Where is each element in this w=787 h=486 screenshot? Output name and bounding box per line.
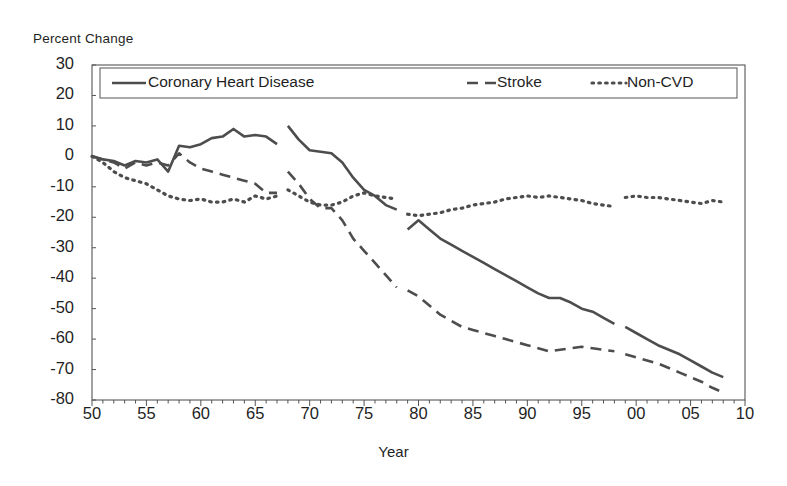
legend-swatches [100,68,737,98]
series-line [408,290,615,351]
series-line [408,196,615,216]
axis-ticks [92,65,745,406]
series-line [408,220,615,324]
data-series-group [92,126,723,392]
chart-figure: Percent Change Year 3020100-10-20-30-40-… [0,0,787,486]
series-line [625,354,723,392]
series-line [92,153,277,193]
series-line [92,129,277,172]
plot-area [0,0,787,486]
axes-frame [92,65,745,400]
series-line [288,172,397,288]
series-line [625,196,723,204]
series-line [625,327,723,377]
series-line [288,126,397,210]
